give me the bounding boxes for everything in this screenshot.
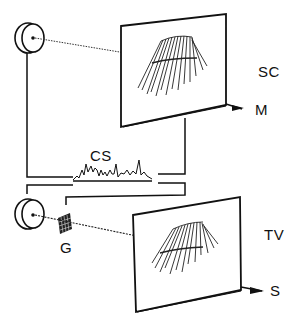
marker-arrow-s: [241, 287, 264, 294]
bottom-disc-source: [15, 199, 44, 229]
cable-signal-waveform: [73, 160, 152, 181]
marker-arrow-m: [226, 104, 244, 111]
label-sc: SC: [258, 64, 280, 79]
label-s: S: [270, 283, 281, 298]
apparatus-diagram: [0, 0, 297, 320]
label-cs: CS: [90, 148, 112, 163]
label-m: M: [255, 102, 268, 117]
tv-screen: [133, 197, 241, 312]
label-tv: TV: [264, 227, 284, 242]
grid-g: [58, 213, 72, 234]
label-g: G: [60, 240, 72, 255]
top-disc-source: [15, 23, 44, 53]
top-screen: [121, 14, 226, 127]
